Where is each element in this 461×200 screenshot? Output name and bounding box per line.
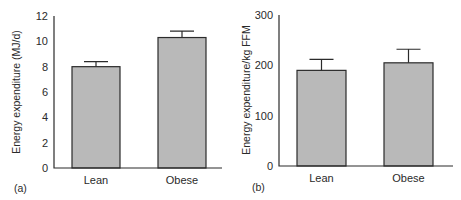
category-label: Obese <box>166 174 198 186</box>
y-tick-label: 200 <box>255 59 273 71</box>
chart-panel-a: Energy expenditure (MJ/d) 024681012 Lean… <box>0 0 230 200</box>
category-labels: LeanObese <box>309 172 424 184</box>
y-axis-label-b: Energy expenditure/kg FFM <box>240 25 252 155</box>
y-tick-label: 0 <box>42 162 48 174</box>
category-label: Lean <box>309 172 333 184</box>
panel-label-a: (a) <box>14 182 27 194</box>
category-label: Lean <box>84 174 108 186</box>
error-bar-obese <box>397 49 421 63</box>
y-tick-label: 0 <box>267 160 273 172</box>
error-bar-lean <box>310 59 334 70</box>
y-tick-label: 300 <box>255 9 273 21</box>
category-labels: LeanObese <box>84 174 198 186</box>
y-axis-title: Energy expenditure/kg FFM <box>240 25 252 155</box>
panel-label-b: (b) <box>252 181 265 193</box>
y-tick-label: 8 <box>42 61 48 73</box>
y-tick-label: 10 <box>36 35 48 47</box>
y-axis-label-a: Energy expenditure (MJ/d) <box>10 30 22 154</box>
bars <box>72 31 206 168</box>
y-tick-label: 100 <box>255 110 273 122</box>
y-tick-label: 4 <box>42 111 48 123</box>
chart-panel-b: Energy expenditure/kg FFM 0100200300 Lea… <box>230 0 461 200</box>
y-tick-label: 2 <box>42 137 48 149</box>
chart-a-svg: Energy expenditure (MJ/d) 024681012 Lean… <box>0 0 230 200</box>
bar-obese <box>384 63 433 166</box>
error-bar-lean <box>84 62 108 67</box>
bars <box>297 49 433 166</box>
error-bar-obese <box>170 31 194 37</box>
bar-obese <box>158 38 206 168</box>
y-tick-label: 12 <box>36 10 48 22</box>
category-label: Obese <box>392 172 424 184</box>
bar-lean <box>297 70 346 166</box>
y-tick-label: 6 <box>42 86 48 98</box>
y-axis-ticks: 0100200300 <box>255 9 273 172</box>
chart-b-svg: Energy expenditure/kg FFM 0100200300 Lea… <box>230 0 461 200</box>
y-axis-ticks: 024681012 <box>36 10 48 174</box>
bar-lean <box>72 67 120 168</box>
y-axis-title: Energy expenditure (MJ/d) <box>10 30 22 154</box>
